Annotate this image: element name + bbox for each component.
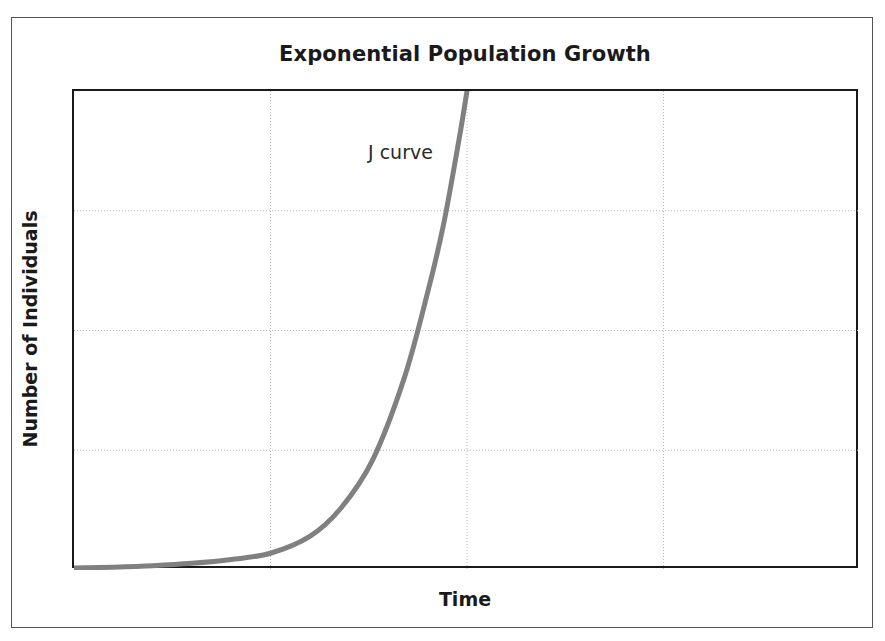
- y-axis-label-container: Number of Individuals: [0, 89, 60, 568]
- curve-annotation-label: J curve: [368, 141, 433, 163]
- horizontal-gridlines: [74, 211, 860, 451]
- plot-svg: [74, 91, 860, 570]
- plot-area: [72, 89, 858, 568]
- chart-figure: Exponential Population Growth J curve Ti…: [0, 0, 885, 641]
- y-axis-label: Number of Individuals: [19, 210, 41, 447]
- x-axis-label: Time: [72, 588, 858, 610]
- chart-title: Exponential Population Growth: [72, 42, 858, 66]
